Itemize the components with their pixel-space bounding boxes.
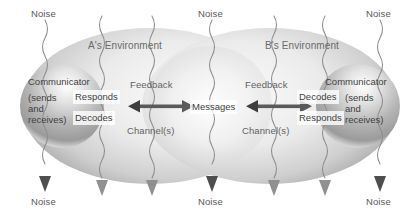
communicator-process-b-responds: Responds	[297, 111, 344, 125]
feedback-label-right: Feedback	[245, 79, 288, 90]
communicator-title-a: Communicator	[28, 76, 90, 87]
communicator-detail-a-line-2: and	[28, 103, 67, 114]
noise-label-top-right: Noise	[366, 8, 391, 19]
environment-label-a: A's Environment	[88, 40, 162, 51]
communicator-process-a-decodes: Decodes	[73, 111, 115, 125]
communicator-title-b: Communicator	[325, 76, 387, 87]
environment-label-b: B's Environment	[265, 40, 339, 51]
noise-label-bottom-center: Noise	[198, 196, 223, 207]
noise-label-top-left: Noise	[31, 8, 56, 19]
messages-label: Messages	[190, 100, 237, 114]
communicator-detail-a: (sends and receives)	[28, 92, 67, 125]
communicator-detail-a-line-1: (sends	[28, 92, 67, 103]
feedback-label-left: Feedback	[130, 79, 173, 90]
communicator-detail-b-line-1: (sends	[345, 92, 384, 103]
channel-label-right: Channel(s)	[242, 125, 289, 136]
communicator-detail-a-line-3: receives)	[28, 114, 67, 125]
communicator-detail-b: (sends and receives)	[345, 92, 384, 125]
noise-label-bottom-left: Noise	[31, 196, 56, 207]
channel-arrow-left	[128, 100, 194, 113]
communicator-process-b-decodes: Decodes	[297, 90, 339, 104]
communicator-detail-b-line-2: and	[345, 103, 384, 114]
diagram-canvas: Noise Noise Noise Noise Noise Noise A's …	[0, 0, 420, 218]
noise-label-top-center: Noise	[198, 8, 223, 19]
communicator-process-a-responds: Responds	[73, 90, 120, 104]
channel-label-left: Channel(s)	[127, 125, 174, 136]
communicator-detail-b-line-3: receives)	[345, 114, 384, 125]
noise-label-bottom-right: Noise	[366, 196, 391, 207]
